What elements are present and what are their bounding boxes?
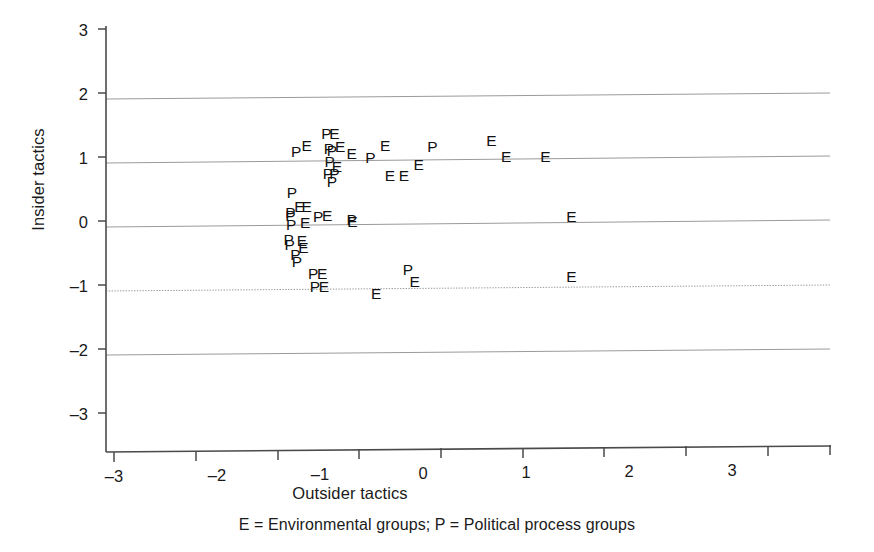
x-axis-line <box>106 446 831 452</box>
data-point-e: E <box>566 209 576 225</box>
x-tick-label: 0 <box>403 465 443 482</box>
data-point-p: P <box>403 262 413 278</box>
data-point-p: P <box>310 279 320 295</box>
scatter-plot-figure: 3 2 1 0 –1 –2 –3 –3 –2 –1 0 1 2 3 EEEEEE… <box>0 0 874 552</box>
x-tick-label: –2 <box>197 467 237 484</box>
data-point-p: P <box>313 209 323 225</box>
data-point-p: P <box>365 150 375 166</box>
data-point-e: E <box>486 133 496 149</box>
y-tick-label: 1 <box>48 150 88 167</box>
x-tick-label: 3 <box>712 462 752 479</box>
data-point-p: P <box>291 144 301 160</box>
y-tick-label: –1 <box>48 278 88 295</box>
legend-caption: E = Environmental groups; P = Political … <box>0 516 874 534</box>
gridline-ym2 <box>106 349 830 355</box>
y-tick-label: 0 <box>48 214 88 231</box>
y-tick-label: 3 <box>48 22 88 39</box>
data-point-e: E <box>346 146 356 162</box>
y-tick-label: –2 <box>48 342 88 359</box>
data-point-e: E <box>302 139 312 155</box>
data-point-p: P <box>321 126 331 142</box>
gridline-ym1 <box>106 285 830 291</box>
data-point-p: P <box>327 174 337 190</box>
x-axis-title: Outsider tactics <box>0 484 700 503</box>
data-point-e: E <box>540 149 550 165</box>
data-point-p: P <box>292 254 302 270</box>
data-point-p: P <box>286 217 296 233</box>
x-tick-label: 2 <box>609 463 649 480</box>
data-point-p: P <box>427 140 437 156</box>
x-tick-label: –1 <box>300 466 340 483</box>
data-point-p: P <box>287 185 297 201</box>
data-point-e: E <box>302 199 312 215</box>
data-point-e: E <box>322 208 332 224</box>
data-point-e: E <box>566 270 576 286</box>
data-point-e: E <box>413 157 423 173</box>
data-point-e: E <box>501 149 511 165</box>
gridline-y2 <box>106 93 830 99</box>
data-point-e: E <box>385 169 395 185</box>
gridline-y0 <box>106 220 830 227</box>
data-point-e: E <box>371 286 381 302</box>
data-point-e: E <box>300 215 310 231</box>
y-tick-label: 2 <box>48 86 88 103</box>
data-point-e: E <box>319 279 329 295</box>
y-axis-title: Insider tactics <box>29 80 48 280</box>
gridline-y1 <box>106 156 830 163</box>
y-tick-label: –3 <box>48 406 88 423</box>
data-point-e: E <box>380 138 390 154</box>
data-point-e: E <box>399 169 409 185</box>
data-point-p: P <box>346 212 356 228</box>
x-tick-label: –3 <box>94 468 134 485</box>
x-tick-label: 1 <box>506 464 546 481</box>
